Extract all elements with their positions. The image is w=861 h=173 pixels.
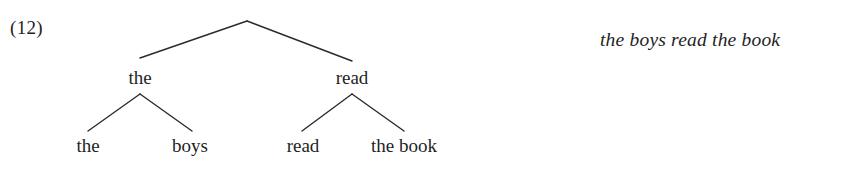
tree-leaf-boys: boys: [172, 136, 208, 155]
tree-leaf-the-book: the book: [371, 136, 437, 155]
tree-node-right-internal: read: [336, 68, 369, 87]
syntax-tree-figure: (12) the read the boys read the book the…: [0, 0, 861, 173]
tree-leaf-read: read: [287, 136, 320, 155]
branch-root-to-left-internal: [140, 21, 247, 58]
branch-root-to-right-internal: [247, 21, 352, 61]
tree-node-left-internal: the: [128, 68, 151, 87]
gloss-sentence: the boys read the book: [600, 30, 780, 50]
tree-leaf-the-determiner: the: [76, 136, 99, 155]
branch-left-internal-to-leaf2: [140, 94, 192, 131]
branch-left-internal-to-leaf1: [88, 94, 140, 131]
branch-right-internal-to-leaf3: [302, 94, 352, 131]
branch-right-internal-to-leaf4: [352, 94, 404, 131]
